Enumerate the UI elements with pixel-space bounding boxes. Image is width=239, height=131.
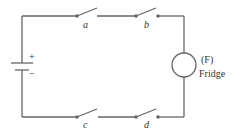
switch-b-label: b <box>144 19 149 30</box>
switch-a[interactable] <box>75 8 97 18</box>
switch-d[interactable] <box>134 109 160 119</box>
switch-d-label: d <box>144 119 150 130</box>
fridge-load-icon <box>172 53 196 77</box>
switch-a-label: a <box>83 19 88 30</box>
switch-c[interactable] <box>75 109 97 119</box>
battery-plus-label: + <box>29 51 35 62</box>
fridge-symbol-label: (F) <box>201 54 213 66</box>
circuit-diagram: + − a b (F) Fridge c <box>0 0 239 131</box>
battery-minus-label: − <box>29 68 35 79</box>
switch-b[interactable] <box>134 8 160 18</box>
switch-c-label: c <box>83 119 88 130</box>
fridge-name-label: Fridge <box>199 68 226 79</box>
